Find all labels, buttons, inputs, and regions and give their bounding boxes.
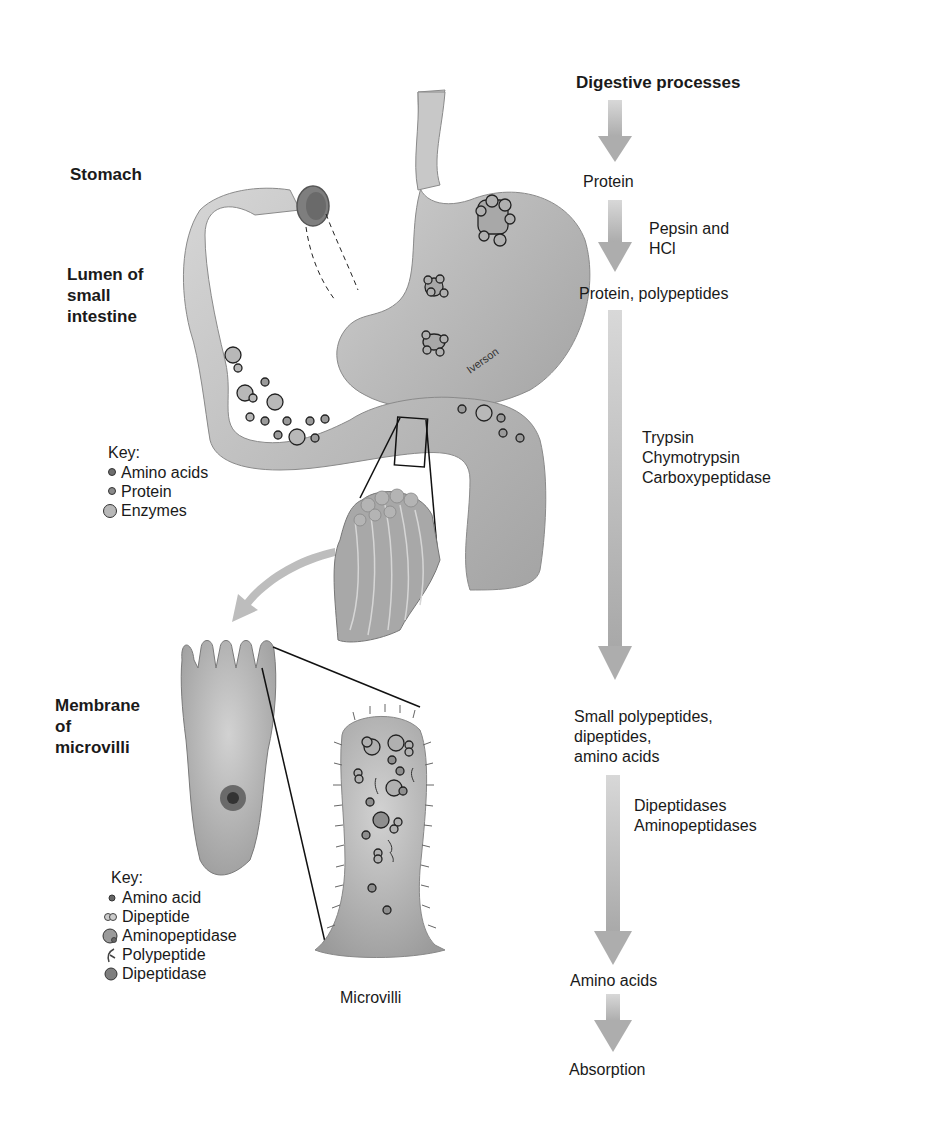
substrate-amino-acids: Amino acids xyxy=(570,971,657,991)
curved-arrow xyxy=(232,548,335,622)
lumen-key-title: Key: xyxy=(108,443,208,463)
lumen-label-line: small xyxy=(67,285,144,306)
key-item-amino-acids: Amino acids xyxy=(106,463,208,482)
stomach-label: Stomach xyxy=(70,164,142,185)
substrate-line: Small polypeptides, xyxy=(574,707,713,727)
enzyme-label: Chymotrypsin xyxy=(642,448,771,468)
lumen-label-line: Lumen of xyxy=(67,264,144,285)
membrane-label-line: Membrane xyxy=(55,695,140,716)
membrane-key: Key: Amino acid Dipeptide Aminopeptidase… xyxy=(111,868,237,983)
key-item-label: Dipeptidase xyxy=(122,964,207,983)
key-item-enzymes: Enzymes xyxy=(102,501,208,520)
key-item-label: Dipeptide xyxy=(122,907,190,926)
microvilli-label: Microvilli xyxy=(340,988,401,1008)
key-item-aminopeptidase: Aminopeptidase xyxy=(101,926,237,945)
absorption-label: Absorption xyxy=(569,1060,646,1080)
enzymes-brush-border: Dipeptidases Aminopeptidases xyxy=(634,796,757,836)
membrane-key-title: Key: xyxy=(111,868,237,888)
substrate-line: dipeptides, xyxy=(574,727,713,747)
dipeptidase-icon xyxy=(103,966,119,982)
lumen-key: Key: Amino acids Protein Enzymes xyxy=(108,443,208,520)
flow-arrow xyxy=(598,310,632,680)
amino-acid-icon xyxy=(106,467,118,479)
key-item-polypeptide: Polypeptide xyxy=(103,945,237,964)
key-item-dipeptidase: Dipeptidase xyxy=(103,964,237,983)
substrate-protein: Protein xyxy=(583,172,634,192)
enzymes-pancreatic: Trypsin Chymotrypsin Carboxypeptidase xyxy=(642,428,771,488)
key-item-label: Polypeptide xyxy=(122,945,206,964)
key-item-label: Amino acid xyxy=(122,888,201,907)
key-item-amino-acid: Amino acid xyxy=(105,888,237,907)
substrate-line: amino acids xyxy=(574,747,713,767)
enzyme-label: Dipeptidases xyxy=(634,796,757,816)
key-item-label: Enzymes xyxy=(121,501,187,520)
polypeptide-icon xyxy=(103,946,119,964)
substrate-small-peptides: Small polypeptides, dipeptides, amino ac… xyxy=(574,707,713,767)
amino-acid-icon xyxy=(105,892,119,904)
diagram-title: Digestive processes xyxy=(576,72,740,93)
key-item-label: Protein xyxy=(121,482,172,501)
lumen-label-line: intestine xyxy=(67,306,144,327)
enzyme-icon xyxy=(102,503,118,519)
aminopeptidase-icon xyxy=(101,927,119,945)
flow-arrow xyxy=(594,994,632,1052)
enzyme-label: HCl xyxy=(649,239,729,259)
membrane-label: Membrane of microvilli xyxy=(55,695,140,758)
enzyme-label: Pepsin and xyxy=(649,219,729,239)
flow-arrow xyxy=(598,200,632,272)
microvillus-illustration xyxy=(315,704,445,958)
key-item-label: Aminopeptidase xyxy=(122,926,237,945)
enzyme-pepsin: Pepsin and HCl xyxy=(649,219,729,259)
villi-section-illustration xyxy=(334,489,440,642)
enzyme-label: Aminopeptidases xyxy=(634,816,757,836)
substrate-protein-polypeptides: Protein, polypeptides xyxy=(579,284,728,304)
enzyme-label: Trypsin xyxy=(642,428,771,448)
enzyme-label: Carboxypeptidase xyxy=(642,468,771,488)
membrane-label-line: microvilli xyxy=(55,737,140,758)
membrane-label-line: of xyxy=(55,716,140,737)
key-item-dipeptide: Dipeptide xyxy=(103,907,237,926)
lumen-label: Lumen of small intestine xyxy=(67,264,144,327)
protein-icon xyxy=(106,486,118,498)
flow-arrow xyxy=(598,100,632,162)
dipeptide-icon xyxy=(103,911,119,923)
key-item-protein: Protein xyxy=(106,482,208,501)
key-item-label: Amino acids xyxy=(121,463,208,482)
flow-arrow xyxy=(594,775,632,965)
stomach-illustration xyxy=(337,90,590,409)
